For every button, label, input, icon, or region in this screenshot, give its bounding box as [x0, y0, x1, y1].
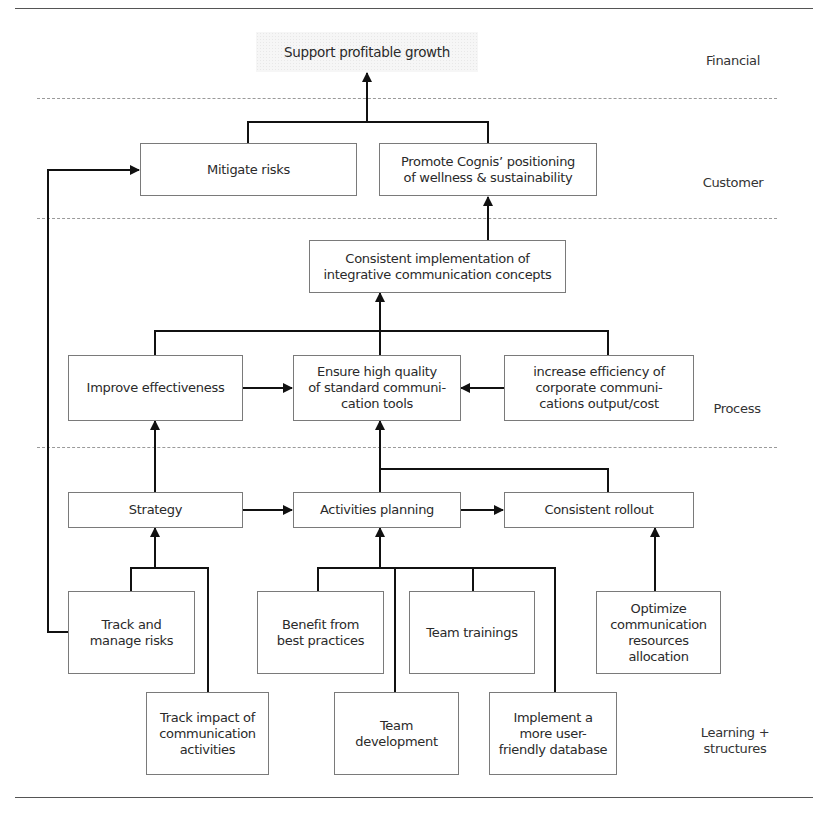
lane-label-learning-structures: Learning + structures: [690, 725, 780, 757]
lane-label-financial: Financial: [693, 53, 773, 69]
lane-divider-process-learning: [37, 447, 777, 448]
node-strategy: Strategy: [68, 492, 243, 528]
node-activities-planning: Activities planning: [293, 492, 461, 528]
lane-divider-financial-customer: [37, 98, 777, 99]
node-optimize-resources: Optimize communication resources allocat…: [596, 591, 721, 674]
goal-support-profitable-growth: Support profitable growth: [256, 32, 478, 72]
node-track-manage-risks: Track and manage risks: [68, 591, 195, 674]
node-benefit-best-practices: Benefit from best practices: [257, 591, 384, 674]
node-consistent-implementation: Consistent implementation of integrative…: [309, 240, 566, 293]
bottom-rule: [15, 797, 813, 798]
node-ensure-quality: Ensure high quality of standard communi-…: [293, 355, 461, 421]
strategy-map-diagram: Support profitable growth Mitigate risks…: [0, 0, 820, 814]
lane-label-customer: Customer: [693, 175, 773, 191]
node-consistent-rollout: Consistent rollout: [504, 492, 694, 528]
node-increase-efficiency: increase efficiency of corporate communi…: [504, 355, 694, 421]
node-promote-positioning: Promote Cognis’ positioning of wellness …: [379, 143, 597, 196]
node-improve-effectiveness: Improve effectiveness: [68, 355, 243, 421]
node-implement-database: Implement a more user- friendly database: [489, 692, 617, 775]
node-team-development: Team development: [334, 692, 459, 775]
top-rule: [15, 8, 813, 9]
node-track-impact: Track impact of communication activities: [146, 692, 269, 775]
lane-divider-customer-process: [37, 218, 777, 219]
lane-label-process: Process: [697, 401, 777, 417]
node-mitigate-risks: Mitigate risks: [140, 143, 357, 196]
node-team-trainings: Team trainings: [409, 591, 535, 674]
